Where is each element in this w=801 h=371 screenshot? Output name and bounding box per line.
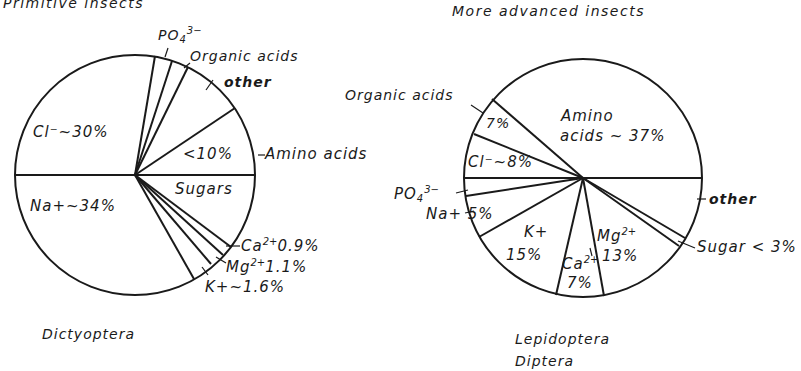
right-label-ca: Ca2+: [562, 255, 598, 272]
right-label-amino-1: Amino: [561, 109, 614, 124]
mg-text: Mg: [597, 227, 621, 245]
right-pie-panel: More advanced insects Organic acids 7% A…: [0, 0, 801, 371]
right-label-cl: Cl⁻~8%: [468, 155, 533, 170]
right-label-amino-2: acids ~ 37%: [560, 129, 665, 144]
mg-sup: 2+: [621, 226, 636, 237]
right-label-ca-pct: 7%: [567, 276, 593, 291]
na-pct: 5%: [468, 205, 494, 223]
right-label-other: other: [709, 192, 757, 206]
ca-text: Ca: [562, 255, 584, 273]
right-caption-2: Diptera: [515, 354, 574, 368]
right-caption-1: Lepidoptera: [515, 332, 610, 346]
right-label-po4: PO43−: [394, 185, 439, 204]
na-text: Na+: [426, 205, 462, 223]
right-title: More advanced insects: [452, 4, 645, 18]
po4-text: PO: [394, 185, 417, 203]
right-label-mg: Mg2+: [597, 227, 636, 244]
right-label-sugar: Sugar < 3%: [697, 240, 797, 255]
right-label-organic-pct: 7%: [486, 116, 510, 130]
right-label-k: K+: [524, 225, 548, 240]
ca-sup: 2+: [584, 254, 599, 265]
right-label-mg-pct: 13%: [602, 249, 638, 264]
right-label-na: Na+ 5%: [426, 207, 494, 222]
po4-sup: 3−: [424, 184, 439, 195]
right-label-organic-acids: Organic acids: [345, 88, 454, 102]
right-label-k-pct: 15%: [506, 248, 542, 263]
